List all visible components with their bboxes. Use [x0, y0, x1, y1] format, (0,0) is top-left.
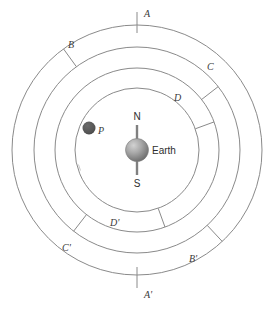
marker-d-label: D	[173, 92, 182, 103]
marker-dp-label: D'	[109, 217, 120, 228]
marker-dp-tick	[158, 208, 165, 227]
inner-orbit-faint-mark	[79, 165, 81, 171]
earth-north-pole-label: N	[133, 111, 140, 122]
marker-bp-tick	[207, 225, 222, 241]
orbit-diagram-canvas: A B C D D' C' B' A' P N S Earth	[0, 0, 277, 311]
planet-p-label: P	[97, 125, 104, 136]
earth-group: N S Earth	[126, 111, 176, 189]
marker-c-label: C	[207, 61, 214, 72]
planet-p-body	[83, 122, 96, 135]
planet-p-group: P	[83, 122, 105, 137]
marker-cp-tick	[74, 215, 87, 232]
orbit-diagram-figure: A B C D D' C' B' A' P N S Earth	[0, 0, 277, 311]
marker-cp-label: C'	[62, 242, 72, 253]
earth-label: Earth	[152, 145, 176, 156]
marker-b-tick	[64, 49, 77, 67]
earth-south-pole-label: S	[134, 178, 141, 189]
marker-a-label: A	[143, 8, 151, 19]
earth-body	[126, 139, 149, 162]
marker-d-tick	[195, 122, 214, 129]
marker-c-tick	[202, 87, 219, 100]
marker-bp-label: B'	[189, 253, 198, 264]
marker-ap-label: A'	[143, 289, 153, 300]
marker-b-label: B	[68, 39, 74, 50]
